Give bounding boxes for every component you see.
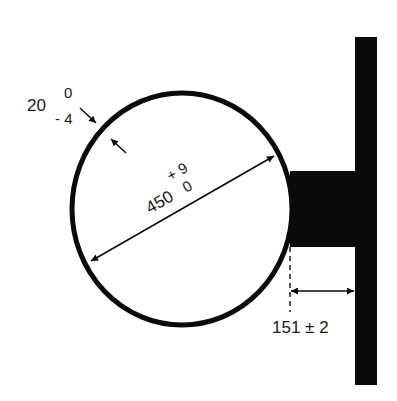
technical-drawing: 450 + 9 0 20 0 - 4 151 ± 2: [0, 0, 397, 401]
wall-upper-tolerance: 0: [64, 84, 72, 101]
wall-thickness-arrow-outer: [80, 108, 96, 123]
wall-bar: [355, 37, 377, 385]
wall-nominal: 20: [27, 96, 46, 115]
offset-label: 151 ± 2: [272, 318, 329, 337]
support-block: [290, 171, 356, 247]
wall-lower-tolerance: - 4: [55, 110, 73, 127]
